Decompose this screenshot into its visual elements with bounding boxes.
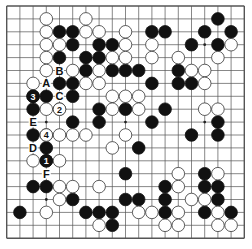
- black-stone[interactable]: [66, 38, 79, 51]
- white-stone[interactable]: [159, 219, 172, 232]
- white-stone[interactable]: [53, 180, 66, 193]
- white-stone[interactable]: [212, 206, 225, 219]
- white-stone[interactable]: [198, 193, 211, 206]
- black-stone[interactable]: [53, 77, 66, 90]
- white-stone[interactable]: [225, 38, 238, 51]
- black-stone[interactable]: [146, 77, 159, 90]
- white-stone[interactable]: [212, 51, 225, 64]
- black-stone[interactable]: [212, 38, 225, 51]
- white-stone[interactable]: [198, 103, 211, 116]
- white-stone[interactable]: [146, 38, 159, 51]
- white-stone[interactable]: [53, 155, 66, 168]
- white-stone[interactable]: [80, 26, 93, 39]
- white-stone[interactable]: [80, 77, 93, 90]
- black-stone[interactable]: [106, 206, 119, 219]
- black-stone[interactable]: [119, 64, 132, 77]
- white-stone[interactable]: [53, 129, 66, 142]
- black-stone[interactable]: [212, 180, 225, 193]
- black-stone[interactable]: [119, 193, 132, 206]
- black-stone[interactable]: [40, 142, 53, 155]
- black-stone[interactable]: [93, 51, 106, 64]
- black-stone[interactable]: [119, 103, 132, 116]
- white-stone[interactable]: [132, 206, 145, 219]
- black-stone[interactable]: [212, 116, 225, 129]
- black-stone[interactable]: [40, 180, 53, 193]
- white-stone[interactable]: [132, 90, 145, 103]
- white-stone[interactable]: [66, 64, 79, 77]
- black-stone[interactable]: [212, 13, 225, 26]
- white-stone[interactable]: [40, 26, 53, 39]
- black-stone[interactable]: [198, 206, 211, 219]
- black-stone[interactable]: [66, 90, 79, 103]
- black-stone[interactable]: [27, 103, 40, 116]
- black-stone[interactable]: [212, 129, 225, 142]
- white-stone[interactable]: [119, 129, 132, 142]
- white-stone[interactable]: [172, 206, 185, 219]
- white-stone[interactable]: [27, 155, 40, 168]
- white-stone[interactable]: [119, 26, 132, 39]
- black-stone[interactable]: [14, 206, 27, 219]
- white-stone[interactable]: [106, 142, 119, 155]
- white-stone[interactable]: [40, 51, 53, 64]
- black-stone[interactable]: [159, 180, 172, 193]
- white-stone[interactable]: [146, 51, 159, 64]
- white-stone[interactable]: [198, 64, 211, 77]
- black-stone[interactable]: [80, 64, 93, 77]
- white-stone[interactable]: [80, 13, 93, 26]
- black-stone[interactable]: [66, 116, 79, 129]
- black-stone[interactable]: [185, 77, 198, 90]
- white-stone[interactable]: [93, 219, 106, 232]
- white-stone[interactable]: [93, 64, 106, 77]
- black-stone[interactable]: [225, 26, 238, 39]
- black-stone[interactable]: [27, 180, 40, 193]
- white-stone[interactable]: [66, 180, 79, 193]
- white-stone[interactable]: [93, 180, 106, 193]
- black-stone[interactable]: [27, 129, 40, 142]
- white-stone[interactable]: [185, 64, 198, 77]
- white-stone[interactable]: [53, 38, 66, 51]
- white-stone[interactable]: [212, 103, 225, 116]
- white-stone[interactable]: [172, 219, 185, 232]
- black-stone[interactable]: [185, 38, 198, 51]
- white-stone[interactable]: [40, 13, 53, 26]
- white-stone[interactable]: [172, 167, 185, 180]
- white-stone[interactable]: [119, 90, 132, 103]
- black-stone[interactable]: [212, 193, 225, 206]
- white-stone[interactable]: [198, 77, 211, 90]
- black-stone[interactable]: [198, 26, 211, 39]
- black-stone[interactable]: [225, 206, 238, 219]
- black-stone[interactable]: [159, 26, 172, 39]
- black-stone[interactable]: [80, 206, 93, 219]
- white-stone[interactable]: [106, 90, 119, 103]
- black-stone[interactable]: [119, 167, 132, 180]
- black-stone[interactable]: [93, 38, 106, 51]
- white-stone[interactable]: [132, 103, 145, 116]
- black-stone[interactable]: [132, 193, 145, 206]
- black-stone[interactable]: [93, 103, 106, 116]
- white-stone[interactable]: [106, 103, 119, 116]
- black-stone[interactable]: [198, 167, 211, 180]
- black-stone[interactable]: [66, 26, 79, 39]
- black-stone[interactable]: [132, 142, 145, 155]
- black-stone[interactable]: [53, 51, 66, 64]
- white-stone[interactable]: [106, 51, 119, 64]
- white-stone[interactable]: [93, 77, 106, 90]
- white-stone[interactable]: [40, 38, 53, 51]
- white-stone[interactable]: [40, 103, 53, 116]
- white-stone[interactable]: [80, 129, 93, 142]
- black-stone[interactable]: [106, 64, 119, 77]
- white-stone[interactable]: [146, 206, 159, 219]
- black-stone[interactable]: [106, 219, 119, 232]
- white-stone[interactable]: [93, 26, 106, 39]
- white-stone[interactable]: [172, 180, 185, 193]
- white-stone[interactable]: [53, 193, 66, 206]
- white-stone[interactable]: [119, 38, 132, 51]
- black-stone[interactable]: [106, 38, 119, 51]
- black-stone[interactable]: [93, 206, 106, 219]
- black-stone[interactable]: [80, 51, 93, 64]
- black-stone[interactable]: [93, 116, 106, 129]
- black-stone[interactable]: [172, 64, 185, 77]
- white-stone[interactable]: [66, 129, 79, 142]
- white-stone[interactable]: [172, 51, 185, 64]
- black-stone[interactable]: [172, 77, 185, 90]
